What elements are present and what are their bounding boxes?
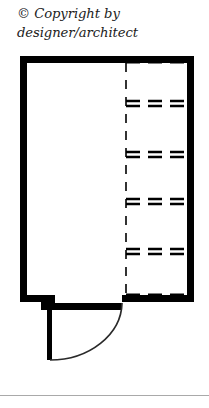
plan-svg (0, 0, 209, 408)
wall-step-block (41, 295, 48, 310)
bottom-separator-rule (0, 395, 209, 396)
perimeter-wall-path (20, 56, 194, 310)
floor-plan-page: © Copyright by designer/architect (0, 0, 209, 408)
door-swing-arc (50, 303, 122, 360)
floor-plan-drawing (0, 0, 209, 408)
closet-shelf-group (126, 62, 190, 295)
